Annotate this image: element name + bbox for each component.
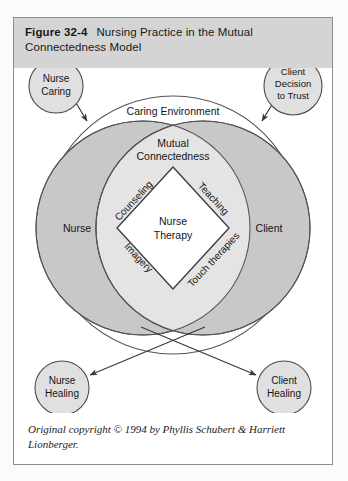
mutual-connectedness-diagram: Caring Environment Mutual Connectedness …	[14, 68, 332, 413]
figure-number: Figure 32-4	[25, 26, 87, 38]
client-decision-line3: to Trust	[277, 90, 309, 101]
nurse-healing-line1: Nurse	[49, 375, 76, 386]
client-healing-line2: Healing	[267, 388, 301, 399]
client-decision-line2: Decision	[275, 78, 311, 89]
caring-environment-label: Caring Environment	[127, 105, 220, 117]
nurse-label: Nurse	[63, 222, 91, 234]
client-decision-line1: Client	[281, 68, 306, 77]
figure-box: Figure 32-4Nursing Practice in the Mutua…	[13, 17, 333, 465]
figure-caption: Original copyright © 1994 by Phyllis Sch…	[28, 422, 316, 451]
nurse-caring-line2: Caring	[41, 86, 70, 97]
figure-title-bar: Figure 32-4Nursing Practice in the Mutua…	[14, 18, 332, 68]
diagram-area: Caring Environment Mutual Connectedness …	[14, 68, 332, 413]
callout-client-healing[interactable]: Client Healing	[257, 361, 311, 413]
client-label: Client	[256, 222, 283, 234]
mutual-connectedness-label-line1: Mutual	[157, 137, 189, 149]
nurse-healing-line2: Healing	[45, 388, 79, 399]
callout-client-decision-to-trust[interactable]: Client Decision to Trust	[264, 68, 322, 115]
nurse-caring-line1: Nurse	[43, 73, 70, 84]
client-healing-line1: Client	[271, 375, 297, 386]
nurse-therapy-label-line2: Therapy	[154, 229, 193, 241]
figure-title: Figure 32-4Nursing Practice in the Mutua…	[25, 25, 324, 55]
callout-nurse-healing[interactable]: Nurse Healing	[35, 361, 89, 413]
callout-nurse-caring[interactable]: Nurse Caring	[29, 68, 83, 113]
mutual-connectedness-label-line2: Connectedness	[137, 150, 210, 162]
figure-page: Figure 32-4Nursing Practice in the Mutua…	[0, 0, 348, 481]
nurse-healing-circle[interactable]	[35, 361, 89, 413]
client-healing-circle[interactable]	[257, 361, 311, 413]
nurse-therapy-label-line1: Nurse	[159, 215, 187, 227]
